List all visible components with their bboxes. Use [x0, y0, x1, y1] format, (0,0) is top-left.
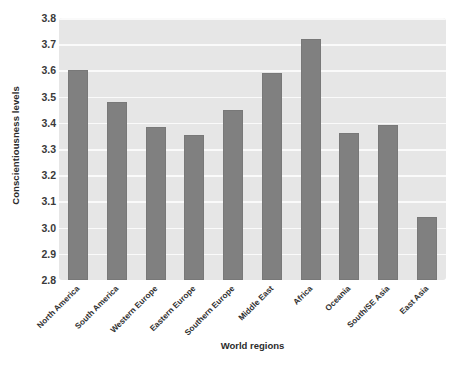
x-tick-slot: Africa	[291, 280, 330, 338]
y-axis-tick-label: 3.2	[41, 169, 56, 181]
bar[interactable]	[68, 70, 88, 280]
bar-slot	[407, 18, 446, 280]
bar-slot	[330, 18, 369, 280]
bar-chart: Conscientiousness levels 3.83.73.63.53.4…	[0, 0, 465, 375]
x-tick-slot: Middle East	[253, 280, 292, 338]
y-axis-tick-labels: 3.83.73.63.53.43.33.23.13.02.92.8	[28, 18, 59, 280]
bar-slot	[214, 18, 253, 280]
bar[interactable]	[301, 39, 321, 280]
y-axis-title-text: Conscientiousness levels	[10, 86, 21, 205]
y-axis-title: Conscientiousness levels	[0, 0, 30, 290]
y-axis-tick-label: 2.8	[41, 274, 56, 286]
y-axis-tick-label: 2.9	[41, 248, 56, 260]
bar[interactable]	[417, 217, 437, 280]
y-axis-tick-label: 3.4	[41, 117, 56, 129]
bar[interactable]	[223, 110, 243, 280]
y-axis-tick-label: 3.0	[41, 222, 56, 234]
y-axis-tick-label: 3.7	[41, 38, 56, 50]
x-axis-title: World regions	[59, 340, 446, 351]
bar[interactable]	[146, 127, 166, 280]
y-axis-tick-label: 3.5	[41, 91, 56, 103]
bar[interactable]	[262, 73, 282, 280]
x-axis-tick-labels: North AmericaSouth AmericaWestern Europe…	[59, 280, 446, 338]
bar[interactable]	[378, 125, 398, 280]
bar-slot	[98, 18, 137, 280]
bar-slot	[59, 18, 98, 280]
bar[interactable]	[339, 133, 359, 280]
y-axis-tick-label: 3.8	[41, 12, 56, 24]
bar-slot	[136, 18, 175, 280]
bar-slot	[291, 18, 330, 280]
bar[interactable]	[184, 135, 204, 280]
y-axis-tick-label: 3.6	[41, 64, 56, 76]
bar-slot	[253, 18, 292, 280]
plot-area	[59, 18, 446, 280]
bar-series	[59, 18, 446, 280]
bar[interactable]	[107, 102, 127, 280]
x-tick-slot: East Asia	[407, 280, 446, 338]
y-axis-tick-label: 3.1	[41, 195, 56, 207]
y-axis-tick-label: 3.3	[41, 143, 56, 155]
bar-slot	[175, 18, 214, 280]
x-axis-tick-label-text: Africa	[291, 284, 314, 307]
bar-slot	[369, 18, 408, 280]
